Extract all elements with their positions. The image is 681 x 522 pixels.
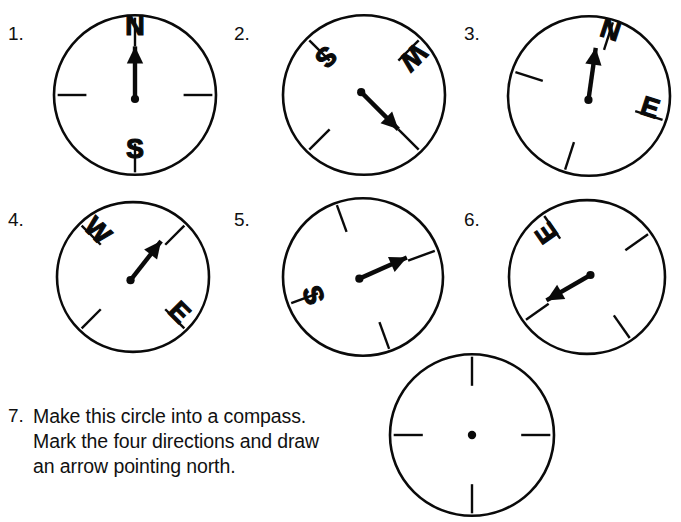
item-number-6: 6. bbox=[464, 210, 480, 229]
needle-pivot-dot bbox=[584, 96, 592, 104]
compass-tick-west bbox=[614, 315, 630, 338]
item-number-4: 4. bbox=[8, 210, 24, 229]
compass-tick-east bbox=[309, 129, 329, 149]
compass-needle bbox=[546, 271, 594, 301]
needle-arrowhead bbox=[127, 46, 143, 63]
compass-needle bbox=[355, 257, 407, 283]
compass-tick-north bbox=[165, 226, 184, 245]
direction-letter: N bbox=[125, 11, 145, 41]
item-number-7: 7. bbox=[8, 406, 24, 425]
needle-pivot-dot bbox=[586, 271, 594, 279]
compass-3: NE bbox=[494, 1, 681, 191]
compass-tick-north bbox=[526, 304, 549, 320]
compass-label-west: W bbox=[78, 211, 118, 251]
compass-tick-south bbox=[625, 234, 648, 250]
needle-pivot-dot bbox=[357, 88, 365, 96]
needle-pivot-dot bbox=[131, 95, 139, 103]
compass-needle bbox=[584, 48, 601, 104]
item-number-3: 3. bbox=[464, 24, 480, 43]
compass-tick-west bbox=[337, 205, 347, 232]
compass-tick-south bbox=[565, 142, 574, 169]
direction-letter: W bbox=[78, 211, 118, 251]
needle-pivot-dot bbox=[126, 276, 134, 284]
compass-drawing-1: NS bbox=[40, 0, 230, 190]
compass-label-south: S bbox=[126, 134, 144, 164]
direction-letter: S bbox=[296, 282, 330, 309]
compass-label-north: N bbox=[125, 11, 145, 41]
compass-label-south: S bbox=[296, 282, 330, 309]
direction-letter: S bbox=[126, 134, 144, 164]
instructions-text-7: Make this circle into a compass. Mark th… bbox=[33, 404, 319, 479]
compass-tick-north bbox=[398, 129, 418, 149]
compass-drawing-4: WE bbox=[43, 187, 223, 367]
compass-drawing-2: SW bbox=[269, 0, 459, 190]
item-number-1: 1. bbox=[8, 24, 24, 43]
compass-tick-south bbox=[82, 309, 101, 328]
compass-4: WE bbox=[43, 187, 223, 367]
compass-center-dot bbox=[468, 431, 476, 439]
item-number-2: 2. bbox=[234, 24, 250, 43]
needle-pivot-dot bbox=[355, 275, 363, 283]
compass-2: SW bbox=[269, 0, 459, 190]
compass-1: NS bbox=[40, 0, 230, 190]
compass-tick-west bbox=[515, 72, 542, 81]
compass-drawing-7 bbox=[376, 339, 568, 522]
compass-tick-north bbox=[408, 251, 435, 261]
worksheet-page: 1.NS2.SW3.NE4.WE5.S6.E7.Make this circle… bbox=[0, 0, 681, 522]
compass-needle bbox=[126, 241, 161, 284]
item-number-5: 5. bbox=[234, 210, 250, 229]
compass-drawing-3: NE bbox=[494, 1, 681, 191]
compass-needle bbox=[357, 88, 398, 129]
compass-7 bbox=[376, 339, 568, 522]
compass-needle bbox=[127, 46, 143, 103]
